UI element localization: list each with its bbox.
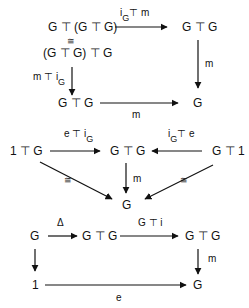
label-assoc-right: m xyxy=(205,59,213,69)
node-inv-top-mid: G ⊤ G xyxy=(82,230,117,242)
node-unit-bottom: G xyxy=(122,199,131,211)
node-g-tensor-g-left-tensor-g: (G ⊤ G) ⊤ G xyxy=(43,47,112,59)
node-assoc-bottom-left: G ⊤ G xyxy=(58,97,93,109)
label-inv-bottom: e xyxy=(116,293,122,303)
node-inv-top-right: G ⊤ G xyxy=(185,230,220,242)
node-g-tensor-g-tensor-g-right: G ⊤ (G ⊤ G) xyxy=(48,21,117,33)
arrow-unit-diag-right xyxy=(145,165,213,199)
label-assoc-top: iG⊤ m xyxy=(120,8,149,18)
label-inv-right: m xyxy=(208,254,216,264)
label-unit-right-iso: ≅ xyxy=(180,176,188,185)
label-unit-left-iso: ≅ xyxy=(64,176,72,185)
label-assoc-left: m ⊤ iG xyxy=(33,72,65,82)
label-assoc-bottom: m xyxy=(132,110,140,120)
arrow-unit-diag-left xyxy=(40,162,112,199)
label-unit-right: iG⊤ e xyxy=(168,129,195,139)
node-unit-center: G ⊤ G xyxy=(110,145,145,157)
label-g-tensor-i: G ⊤ i xyxy=(138,218,163,228)
node-inv-top-left: G xyxy=(30,230,39,242)
node-one-tensor-g: 1 ⊤ G xyxy=(10,145,43,157)
iso-symbol: ≅ xyxy=(67,37,75,46)
node-assoc-top-right: G ⊤ G xyxy=(182,21,217,33)
node-inv-bottom-right: G xyxy=(193,279,202,291)
node-inv-bottom-left: 1 xyxy=(32,279,39,291)
node-assoc-bottom-right: G xyxy=(193,97,202,109)
node-g-tensor-one: G ⊤ 1 xyxy=(212,145,245,157)
label-unit-left: e ⊤ iG xyxy=(64,129,93,139)
label-unit-down: m xyxy=(133,174,141,184)
label-delta: Δ xyxy=(57,218,64,228)
